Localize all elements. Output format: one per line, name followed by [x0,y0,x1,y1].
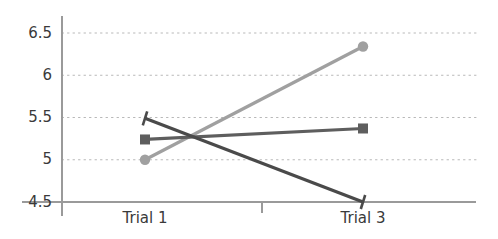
x-axis-tick-label: Trial 3 [340,209,386,227]
y-axis-tick-label: 4.5 [28,193,52,211]
x-axis-tick-label: Trial 1 [122,209,168,227]
line-chart: 4.555.566.5 Trial 1Trial 3 [0,0,498,239]
data-point-marker-circle [358,41,368,51]
x-axis-tick-labels: Trial 1Trial 3 [122,209,386,227]
y-axis-tick-label: 6 [42,66,52,84]
data-point-marker-square [358,123,368,133]
y-axis-tick-labels: 4.555.566.5 [28,24,52,211]
data-point-marker-circle [140,155,150,165]
series-line [145,47,363,160]
series-series-light [140,41,368,165]
series-layer [140,41,368,209]
series-series-medium [140,123,368,144]
data-point-marker-square [140,134,150,144]
y-axis-tick-label: 5.5 [28,108,52,126]
chart-container: 4.555.566.5 Trial 1Trial 3 [0,0,498,239]
y-axis-tick-label: 6.5 [28,24,52,42]
y-axis-tick-label: 5 [42,150,52,168]
